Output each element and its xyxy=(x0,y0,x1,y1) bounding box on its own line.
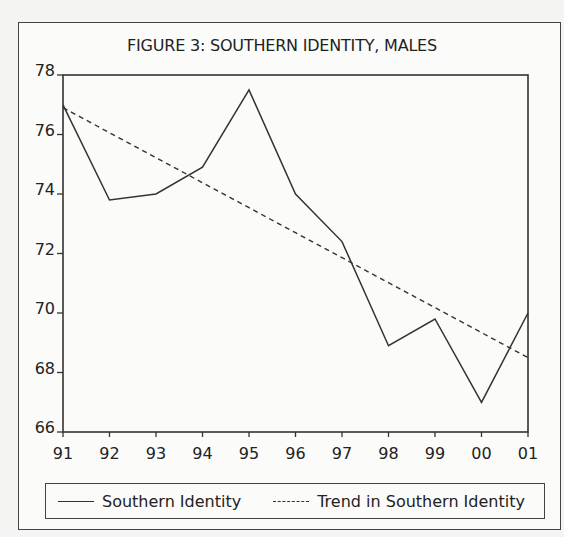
x-tick-label: 92 xyxy=(99,444,119,463)
plot-area xyxy=(63,75,528,432)
y-tick-label: 70 xyxy=(35,299,55,318)
legend-label: Trend in Southern Identity xyxy=(317,492,525,511)
x-tick-label: 00 xyxy=(471,444,491,463)
legend-item-trend: Trend in Southern Identity xyxy=(241,492,525,511)
y-tick-label: 76 xyxy=(35,121,55,140)
legend-label: Southern Identity xyxy=(102,492,241,511)
x-tick-label: 98 xyxy=(378,444,398,463)
southern-identity-series-line xyxy=(63,90,528,402)
x-tick-label: 93 xyxy=(146,444,166,463)
x-tick-label: 96 xyxy=(285,444,305,463)
y-tick-label: 66 xyxy=(35,418,55,437)
y-axis: 66687072747678 xyxy=(35,61,63,437)
solid-line-swatch-icon xyxy=(58,501,94,502)
trend-series-line xyxy=(63,108,528,358)
x-tick-label: 95 xyxy=(239,444,259,463)
y-tick-label: 72 xyxy=(35,240,55,259)
legend: Southern Identity Trend in Southern Iden… xyxy=(45,483,545,519)
y-tick-label: 74 xyxy=(35,180,55,199)
x-tick-label: 99 xyxy=(425,444,445,463)
y-tick-label: 68 xyxy=(35,359,55,378)
line-chart: 66687072747678 9192939495969798990001 xyxy=(0,0,564,537)
y-tick-label: 78 xyxy=(35,61,55,80)
x-axis: 9192939495969798990001 xyxy=(53,432,538,463)
x-tick-label: 94 xyxy=(192,444,212,463)
dashed-line-swatch-icon xyxy=(273,501,309,502)
x-tick-label: 91 xyxy=(53,444,73,463)
x-tick-label: 01 xyxy=(518,444,538,463)
legend-item-southern-identity: Southern Identity xyxy=(46,492,241,511)
x-tick-label: 97 xyxy=(332,444,352,463)
